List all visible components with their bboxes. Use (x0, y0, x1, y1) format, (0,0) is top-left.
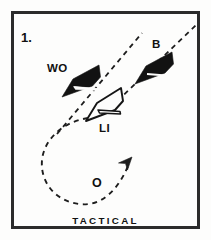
ship-label-wo: WO (47, 62, 68, 74)
ship-label-b: B (152, 38, 161, 50)
tactical-diagram-figure: 1. WO B LI O TACTICAL (0, 0, 211, 240)
ship-li-wake (98, 110, 121, 114)
figure-caption: TACTICAL (72, 215, 139, 226)
diagram-canvas: 1. WO B LI O TACTICAL (0, 0, 211, 240)
figure-border (13, 13, 199, 228)
figure-index-label: 1. (21, 30, 32, 45)
marker-label-o: O (92, 176, 102, 190)
ship-label-li: LI (99, 122, 110, 134)
